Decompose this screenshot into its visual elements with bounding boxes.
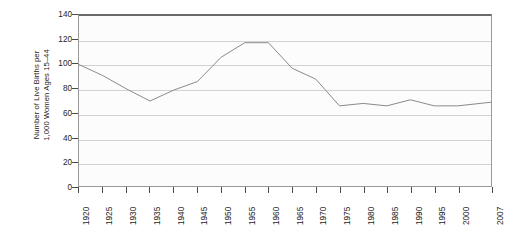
x-axis-tick-label: 1990 bbox=[415, 207, 424, 225]
x-axis-tick-mark bbox=[245, 187, 246, 193]
x-axis-tick-label: 1995 bbox=[438, 207, 447, 225]
x-axis-tick-label: 2007 bbox=[496, 207, 505, 225]
y-axis-tick-label: 80 bbox=[63, 84, 72, 93]
x-axis-tick-mark bbox=[126, 187, 127, 193]
y-axis-tick-label: 140 bbox=[58, 10, 72, 19]
x-axis-tick-label: 1935 bbox=[153, 207, 162, 225]
x-axis-tick-mark bbox=[411, 187, 412, 193]
x-axis-tick-label: 1960 bbox=[272, 207, 281, 225]
x-axis-tick-mark bbox=[197, 187, 198, 193]
x-axis-tick-label: 1970 bbox=[319, 207, 328, 225]
x-axis-tick-mark bbox=[102, 187, 103, 193]
x-axis-tick-mark bbox=[292, 187, 293, 193]
y-axis-tick-label: 120 bbox=[58, 34, 72, 43]
x-axis-tick-mark bbox=[268, 187, 269, 193]
y-axis-tick-labels: 020406080100120140 bbox=[44, 10, 72, 191]
x-axis-tick-mark bbox=[459, 187, 460, 193]
plot-area bbox=[78, 14, 492, 187]
y-axis-tick-label: 60 bbox=[63, 108, 72, 117]
x-axis-tick-label: 1940 bbox=[177, 207, 186, 225]
x-axis-tick-mark bbox=[387, 187, 388, 193]
x-axis-tick-label: 1975 bbox=[343, 207, 352, 225]
x-axis-tick-mark bbox=[340, 187, 341, 193]
x-axis-tick-label: 2000 bbox=[462, 207, 471, 225]
birth-rate-line-chart: Number of Live Births per 1,000 Women Ag… bbox=[0, 0, 516, 233]
x-axis-tick-label: 1950 bbox=[224, 207, 233, 225]
data-line-svg bbox=[79, 16, 491, 186]
x-axis-tick-mark bbox=[221, 187, 222, 193]
x-axis-tick-marks bbox=[78, 187, 492, 193]
x-axis-tick-label: 1920 bbox=[82, 207, 91, 225]
x-axis-tick-mark bbox=[173, 187, 174, 193]
y-axis-tick-label: 100 bbox=[58, 59, 72, 68]
x-axis-tick-label: 1985 bbox=[391, 207, 400, 225]
x-axis-tick-label: 1955 bbox=[248, 207, 257, 225]
birth-rate-data-line bbox=[79, 43, 491, 106]
y-axis-tick-label: 20 bbox=[63, 158, 72, 167]
x-axis-tick-mark bbox=[149, 187, 150, 193]
x-axis-tick-mark bbox=[78, 187, 79, 193]
x-axis-tick-label: 1945 bbox=[200, 207, 209, 225]
x-axis-tick-mark bbox=[364, 187, 365, 193]
x-axis-tick-mark bbox=[435, 187, 436, 193]
x-axis-tick-label: 1980 bbox=[367, 207, 376, 225]
x-axis-tick-labels: 1920192519301935194019451950195519601965… bbox=[78, 195, 492, 233]
x-axis-tick-mark bbox=[316, 187, 317, 193]
x-axis-tick-mark bbox=[492, 187, 493, 193]
y-axis-tick-label: 40 bbox=[63, 133, 72, 142]
x-axis-tick-label: 1930 bbox=[129, 207, 138, 225]
x-axis-tick-label: 1965 bbox=[296, 207, 305, 225]
y-axis-title-line-1: Number of Live Births per bbox=[32, 51, 43, 140]
x-axis-tick-label: 1925 bbox=[105, 207, 114, 225]
